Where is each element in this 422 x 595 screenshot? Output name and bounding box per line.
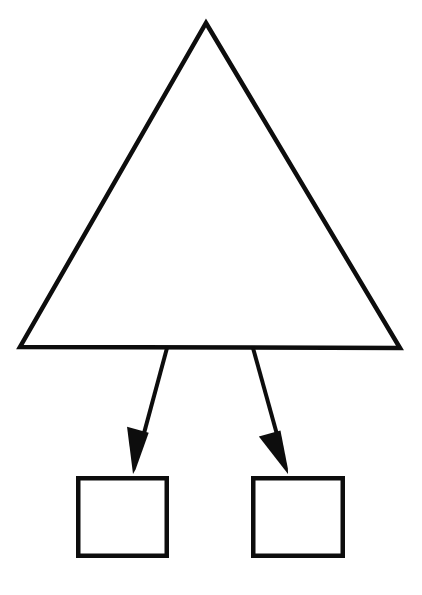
canvas-background [0, 0, 422, 595]
diagram-drawing [0, 0, 422, 595]
diagram-canvas [0, 0, 422, 595]
